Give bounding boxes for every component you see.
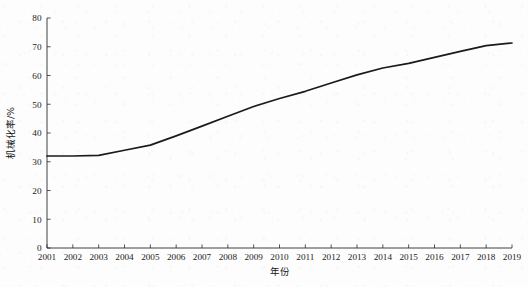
x-axis-tick-label: 2012 — [322, 252, 341, 262]
x-axis-title: 年份 — [270, 266, 290, 277]
x-axis-tick-label: 2017 — [451, 252, 470, 262]
y-axis-tick-label: 60 — [32, 71, 42, 81]
x-axis-tick-label: 2014 — [374, 252, 393, 262]
x-axis-tick-label: 2006 — [167, 252, 186, 262]
x-axis-tick-label: 2008 — [219, 252, 238, 262]
y-axis-tick-label: 10 — [32, 215, 42, 225]
x-axis-tick-label: 2004 — [115, 252, 134, 262]
x-axis-tick-label: 2011 — [296, 252, 314, 262]
chart-figure: 01020304050607080 2001200220032004200520… — [0, 0, 528, 287]
x-axis-tick-label: 2010 — [270, 252, 289, 262]
x-axis-tick-label: 2001 — [38, 252, 57, 262]
x-axis-tick-label: 2009 — [244, 252, 263, 262]
x-axis-tick-label: 2002 — [64, 252, 83, 262]
y-axis-tick-label: 30 — [32, 157, 42, 167]
x-axis-tick-label: 2005 — [141, 252, 160, 262]
x-axis-tick-label: 2018 — [477, 252, 496, 262]
y-axis-tick-label: 70 — [32, 42, 42, 52]
chart-background — [0, 0, 528, 287]
x-axis-tick-label: 2019 — [503, 252, 522, 262]
y-axis-tick-label: 50 — [32, 100, 42, 110]
x-axis-tick-label: 2007 — [193, 252, 212, 262]
y-axis-tick-label: 80 — [32, 13, 42, 23]
y-axis-tick-label: 40 — [32, 128, 42, 138]
x-axis-tick-label: 2015 — [399, 252, 418, 262]
y-axis-title: 机械化率/% — [5, 107, 16, 159]
y-axis-tick-label: 20 — [32, 186, 42, 196]
x-axis-tick-label: 2003 — [89, 252, 108, 262]
line-chart-canvas: 01020304050607080 2001200220032004200520… — [0, 0, 528, 287]
x-axis-tick-label: 2013 — [348, 252, 367, 262]
x-axis-tick-label: 2016 — [425, 252, 444, 262]
